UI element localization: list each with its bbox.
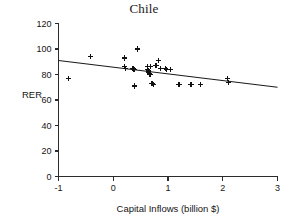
data-point <box>122 55 127 60</box>
x-tick-label: 2 <box>220 183 225 193</box>
data-point <box>156 58 161 63</box>
y-tick-label: 120 <box>36 19 51 29</box>
x-tick-label: -1 <box>54 183 62 193</box>
y-tick-label: 100 <box>36 44 51 54</box>
data-point <box>88 54 93 59</box>
chart-figure: Chile 020406080100120 -10123 RER Capital… <box>0 0 288 221</box>
x-tick-label: 1 <box>165 183 170 193</box>
scatter-plot: 020406080100120 -10123 RER Capital Inflo… <box>0 0 288 221</box>
data-point <box>153 63 158 68</box>
data-point <box>198 82 203 87</box>
data-point <box>158 66 163 71</box>
data-point <box>132 83 137 88</box>
y-tick-label: 0 <box>46 172 51 182</box>
data-point <box>66 76 71 81</box>
x-axis-ticks: -10123 <box>54 177 280 193</box>
y-axis-title: RER <box>22 89 42 100</box>
data-point <box>188 82 193 87</box>
data-point <box>135 46 140 51</box>
y-tick-label: 40 <box>41 121 51 131</box>
data-point <box>168 67 173 72</box>
data-point <box>226 80 231 85</box>
x-axis-title: Capital Inflows (billion $) <box>117 203 220 214</box>
y-axis-ticks: 020406080100120 <box>36 19 58 182</box>
data-point-group <box>66 46 231 88</box>
regression-trendline <box>59 60 278 87</box>
y-tick-label: 80 <box>41 70 51 80</box>
y-tick-label: 20 <box>41 146 51 156</box>
x-tick-label: 3 <box>275 183 280 193</box>
axis-frame <box>59 24 278 177</box>
data-point <box>176 82 181 87</box>
x-tick-label: 0 <box>111 183 116 193</box>
y-tick-label: 60 <box>41 95 51 105</box>
